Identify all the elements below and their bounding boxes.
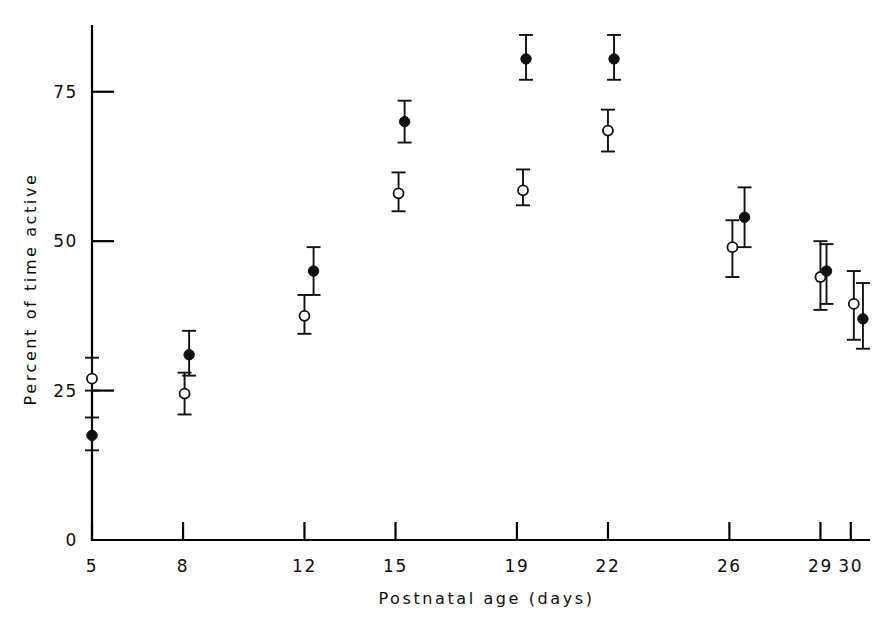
x-tick-label-12: 12 bbox=[292, 556, 317, 576]
marker-filled-circle bbox=[521, 54, 531, 64]
tick-marks-group bbox=[92, 92, 851, 540]
marker-filled-circle bbox=[87, 430, 97, 440]
data-point-open-circle-day-19 bbox=[516, 169, 530, 205]
tick-labels-group: 02550755812151922262930 bbox=[53, 82, 863, 576]
y-tick-label-0: 0 bbox=[66, 530, 78, 550]
x-tick-label-22: 22 bbox=[596, 556, 621, 576]
data-point-open-circle-day-12 bbox=[297, 295, 311, 334]
data-point-filled-circle-day-26 bbox=[738, 187, 752, 247]
marker-filled-circle bbox=[821, 266, 831, 276]
data-point-filled-circle-day-5 bbox=[85, 417, 99, 450]
data-point-filled-circle-day-19 bbox=[519, 35, 533, 80]
x-tick-label-19: 19 bbox=[505, 556, 530, 576]
data-point-open-circle-day-30 bbox=[847, 271, 861, 340]
data-point-filled-circle-day-12 bbox=[307, 247, 321, 295]
marker-open-circle bbox=[727, 242, 737, 252]
data-point-filled-circle-day-22 bbox=[607, 35, 621, 80]
marker-open-circle bbox=[603, 126, 613, 136]
marker-open-circle bbox=[299, 311, 309, 321]
axes-group bbox=[92, 26, 869, 540]
data-point-open-circle-day-15 bbox=[392, 172, 406, 211]
marker-open-circle bbox=[518, 185, 528, 195]
data-point-open-circle-day-8 bbox=[178, 373, 192, 415]
x-tick-label-30: 30 bbox=[838, 556, 863, 576]
marker-filled-circle bbox=[609, 54, 619, 64]
y-axis-title: Percent of time active bbox=[21, 173, 40, 406]
marker-open-circle bbox=[180, 389, 190, 399]
marker-filled-circle bbox=[399, 116, 409, 126]
marker-open-circle bbox=[394, 188, 404, 198]
data-point-open-circle-day-5 bbox=[85, 358, 99, 391]
data-point-open-circle-day-22 bbox=[601, 110, 615, 152]
y-tick-label-50: 50 bbox=[53, 231, 78, 251]
data-point-open-circle-day-26 bbox=[725, 220, 739, 277]
x-tick-label-26: 26 bbox=[717, 556, 742, 576]
data-points-group bbox=[85, 35, 870, 450]
marker-filled-circle bbox=[739, 212, 749, 222]
marker-open-circle bbox=[87, 374, 97, 384]
figure-container: 02550755812151922262930 Postnatal age (d… bbox=[0, 0, 883, 632]
y-tick-label-75: 75 bbox=[53, 82, 78, 102]
data-point-filled-circle-day-15 bbox=[398, 101, 412, 143]
x-tick-label-15: 15 bbox=[383, 556, 408, 576]
x-tick-label-5: 5 bbox=[86, 556, 98, 576]
x-axis-title: Postnatal age (days) bbox=[378, 589, 594, 608]
y-tick-label-25: 25 bbox=[53, 381, 78, 401]
marker-filled-circle bbox=[184, 350, 194, 360]
scatter-plot: 02550755812151922262930 Postnatal age (d… bbox=[0, 0, 883, 632]
x-tick-label-29: 29 bbox=[808, 556, 833, 576]
data-point-filled-circle-day-8 bbox=[182, 331, 196, 376]
marker-open-circle bbox=[849, 299, 859, 309]
marker-filled-circle bbox=[858, 314, 868, 324]
marker-filled-circle bbox=[308, 266, 318, 276]
x-tick-label-8: 8 bbox=[177, 556, 189, 576]
